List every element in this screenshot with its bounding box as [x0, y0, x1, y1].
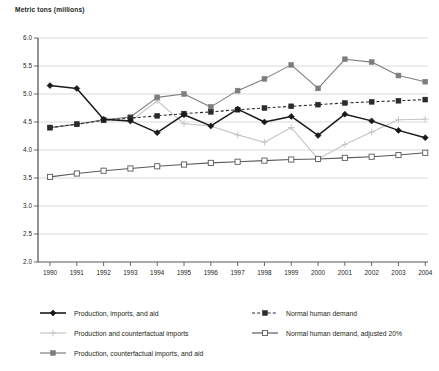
data-point-square: [396, 98, 401, 103]
data-point-square: [235, 88, 240, 93]
x-axis-tick-label: 2001: [338, 269, 353, 276]
y-axis-tick-label: 3.5: [23, 174, 32, 181]
legend-item-2[interactable]: Production, counterfactual imports, and …: [40, 350, 203, 358]
data-point-square: [51, 351, 56, 356]
data-point-square-open: [396, 152, 401, 157]
data-point-square: [262, 106, 267, 111]
x-axis-tick-label: 1998: [257, 269, 272, 276]
data-point-square: [289, 62, 294, 67]
data-point-plus: [422, 116, 429, 123]
data-point-square-open: [208, 160, 213, 165]
data-point-square: [369, 99, 374, 104]
chart-plot: 2.02.53.03.54.04.55.05.56.01990199119921…: [0, 0, 439, 371]
data-point-square-open: [128, 166, 133, 171]
data-point-square-open: [423, 150, 428, 155]
y-axis-tick-label: 2.0: [23, 258, 32, 265]
data-point-square: [342, 101, 347, 106]
data-point-square-open: [262, 330, 267, 335]
data-point-plus: [261, 139, 268, 146]
y-axis-tick-label: 6.0: [23, 34, 32, 41]
data-point-square: [342, 57, 347, 62]
data-point-square-open: [101, 168, 106, 173]
legend-item-4[interactable]: Normal human demand, adjusted 20%: [252, 330, 402, 338]
legend-item-3[interactable]: Normal human demand: [252, 310, 357, 317]
x-axis-tick-label: 1999: [284, 269, 299, 276]
data-point-square-open: [155, 164, 160, 169]
x-axis-tick-label: 2000: [311, 269, 326, 276]
x-axis-tick-label: 1996: [204, 269, 219, 276]
data-point-diamond: [261, 119, 267, 125]
y-axis-tick-label: 5.0: [23, 90, 32, 97]
data-point-diamond: [47, 83, 53, 89]
legend-item-0[interactable]: Production, imports, and aid: [40, 310, 159, 318]
data-point-square: [155, 95, 160, 100]
y-axis-tick-label: 5.5: [23, 62, 32, 69]
legend-label: Production, counterfactual imports, and …: [74, 350, 203, 358]
x-axis-tick-label: 1992: [96, 269, 111, 276]
data-point-square-open: [181, 162, 186, 167]
data-point-square: [369, 60, 374, 65]
data-point-plus: [368, 129, 375, 136]
y-axis-tick-label: 3.0: [23, 202, 32, 209]
data-point-square: [48, 125, 53, 130]
data-point-square-open: [369, 154, 374, 159]
data-point-diamond: [50, 310, 56, 316]
data-point-square: [263, 311, 268, 316]
legend-label: Normal human demand: [286, 310, 357, 317]
x-axis-tick-label: 1991: [70, 269, 85, 276]
data-point-square: [396, 73, 401, 78]
data-point-square: [155, 113, 160, 118]
data-point-square-open: [342, 155, 347, 160]
data-point-diamond: [395, 127, 401, 133]
x-axis-tick-label: 1995: [177, 269, 192, 276]
data-point-square-open: [315, 156, 320, 161]
x-axis-tick-label: 1997: [231, 269, 246, 276]
data-point-plus: [50, 330, 57, 337]
x-axis-tick-label: 1990: [43, 269, 58, 276]
x-axis-tick-label: 2004: [418, 269, 433, 276]
data-point-plus: [234, 132, 241, 139]
legend-label: Production, imports, and aid: [74, 310, 159, 318]
chart-legend: Production, imports, and aidProduction a…: [40, 310, 402, 358]
x-axis-tick-label: 1994: [150, 269, 165, 276]
chart-container: Metric tons (millions) 2.02.53.03.54.04.…: [0, 0, 439, 371]
data-point-square: [423, 79, 428, 84]
x-axis: 1990199119921993199419951996199719981999…: [43, 262, 433, 276]
data-point-square: [208, 104, 213, 109]
gridlines: 2.02.53.03.54.04.55.05.56.0: [23, 34, 428, 265]
data-point-square-open: [74, 171, 79, 176]
data-point-plus: [342, 141, 349, 148]
data-point-diamond: [422, 135, 428, 141]
data-point-square-open: [289, 157, 294, 162]
legend-label: Production and counterfactual imports: [74, 330, 189, 338]
data-point-square: [289, 104, 294, 109]
x-axis-tick-label: 2002: [365, 269, 380, 276]
x-axis-tick-label: 1993: [123, 269, 138, 276]
data-point-square-open: [262, 158, 267, 163]
data-point-square: [182, 92, 187, 97]
series-4: [47, 150, 427, 179]
data-point-square: [208, 109, 213, 114]
legend-label: Normal human demand, adjusted 20%: [286, 330, 402, 338]
y-axis-tick-label: 2.5: [23, 230, 32, 237]
series-3: [48, 97, 428, 130]
data-point-diamond: [369, 118, 375, 124]
data-point-square: [423, 97, 428, 102]
y-axis-tick-label: 4.0: [23, 146, 32, 153]
data-point-square-open: [235, 159, 240, 164]
data-point-square-open: [47, 174, 52, 179]
x-axis-tick-label: 2003: [391, 269, 406, 276]
data-point-square: [316, 86, 321, 91]
data-point-square: [74, 122, 79, 127]
data-point-square: [316, 102, 321, 107]
data-point-square: [262, 76, 267, 81]
y-axis-tick-label: 4.5: [23, 118, 32, 125]
legend-item-1[interactable]: Production and counterfactual imports: [40, 330, 189, 338]
